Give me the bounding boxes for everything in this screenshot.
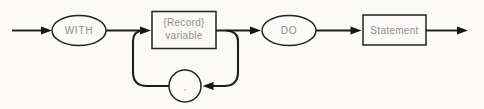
record-variable-node: {Record} variable (152, 12, 216, 49)
statement-arrowhead-icon (351, 27, 362, 35)
entry-arrowhead-icon (41, 27, 52, 35)
with-terminal-label: WITH (65, 25, 94, 36)
do-terminal-label: DO (281, 25, 298, 36)
record-variable-label-line2: variable (165, 30, 203, 41)
do-arrowhead-icon (250, 27, 261, 35)
syntax-diagram-canvas: WITH , {Record} variable DO (0, 0, 484, 109)
statement-label: Statement (370, 25, 418, 36)
loop-arrowhead-icon (203, 82, 214, 90)
separator-node: , (169, 70, 201, 102)
do-terminal-node: DO (262, 16, 316, 46)
statement-node: Statement (363, 15, 426, 45)
separator-label: , (184, 82, 187, 92)
syntax-diagram-page: WITH , {Record} variable DO (0, 0, 484, 109)
record-variable-label-line1: {Record} (163, 17, 205, 28)
with-terminal-node: WITH (52, 16, 106, 46)
exit-arrowhead-icon (457, 27, 468, 35)
